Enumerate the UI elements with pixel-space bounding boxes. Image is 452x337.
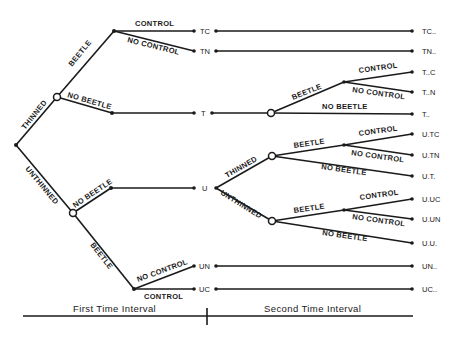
edge-t-no-beetle (271, 113, 412, 114)
outcome-uc: UC.. (422, 285, 437, 294)
label-no-control-1: NO CONTROL (127, 35, 181, 57)
node-dots (14, 29, 414, 291)
label-control-1: CONTROL (135, 19, 174, 28)
label-no-beetle-1: NO BEETLE (66, 90, 112, 111)
edge-unthinned (16, 145, 73, 213)
outcome-t-n: T..N (422, 88, 435, 97)
chance-node-t (268, 110, 275, 117)
outcome-t-c: T..C (422, 68, 436, 77)
label-beetle-t: BEETLE (290, 82, 322, 102)
outcome-u-tn: U.TN (422, 151, 440, 160)
edge-t-control (344, 72, 412, 82)
edge-ut-control (344, 134, 412, 145)
label-control-uu: CONTROL (359, 188, 399, 202)
chance-node-uu (269, 218, 276, 225)
label-unthinned-2: UNTHINNED (219, 188, 264, 221)
outcome-un: UN.. (422, 262, 437, 271)
outcome-tn: TN.. (422, 47, 436, 56)
label-unthinned: UNTHINNED (23, 165, 60, 207)
outcome-u-uc: U.UC (422, 195, 441, 204)
node-t: T (201, 109, 206, 118)
outcome-t: T.. (422, 110, 430, 119)
outcome-tc: TC.. (422, 27, 436, 36)
outcome-u-un: U.UN (422, 215, 440, 224)
node-tc: TC (200, 27, 211, 36)
node-uc: UC (199, 285, 210, 294)
label-control-2: CONTROL (144, 292, 183, 301)
outcome-u-u: U.U. (422, 239, 437, 248)
label-control-ut: CONTROL (358, 124, 398, 138)
label-first-interval: First Time Interval (73, 303, 156, 314)
label-no-beetle-2: NO BEETLE (71, 177, 114, 210)
label-beetle-1: BEETLE (67, 38, 94, 68)
node-un: UN (199, 262, 210, 271)
node-tn: TN (200, 47, 210, 56)
label-no-beetle-ut: NO BEETLE (321, 162, 367, 177)
decision-tree-diagram: THINNED BEETLE CONTROL NO CONTROL NO BEE… (0, 0, 452, 337)
chance-node-ut (269, 153, 276, 160)
label-thinned: THINNED (20, 98, 49, 131)
node-u: U (202, 184, 207, 193)
chance-node-unthinned (70, 210, 77, 217)
chance-node-thinned (54, 94, 61, 101)
label-second-interval: Second Time Interval (264, 303, 361, 314)
outcome-u-tc: U.TC (422, 130, 440, 139)
label-no-beetle-uu: NO BEETLE (322, 228, 368, 243)
outcome-u-t: U.T. (422, 172, 435, 181)
label-no-beetle-t: NO BEETLE (322, 102, 368, 111)
label-control-t: CONTROL (358, 61, 398, 75)
label-beetle-2: BEETLE (88, 241, 114, 271)
edge-uu-control (344, 199, 412, 210)
